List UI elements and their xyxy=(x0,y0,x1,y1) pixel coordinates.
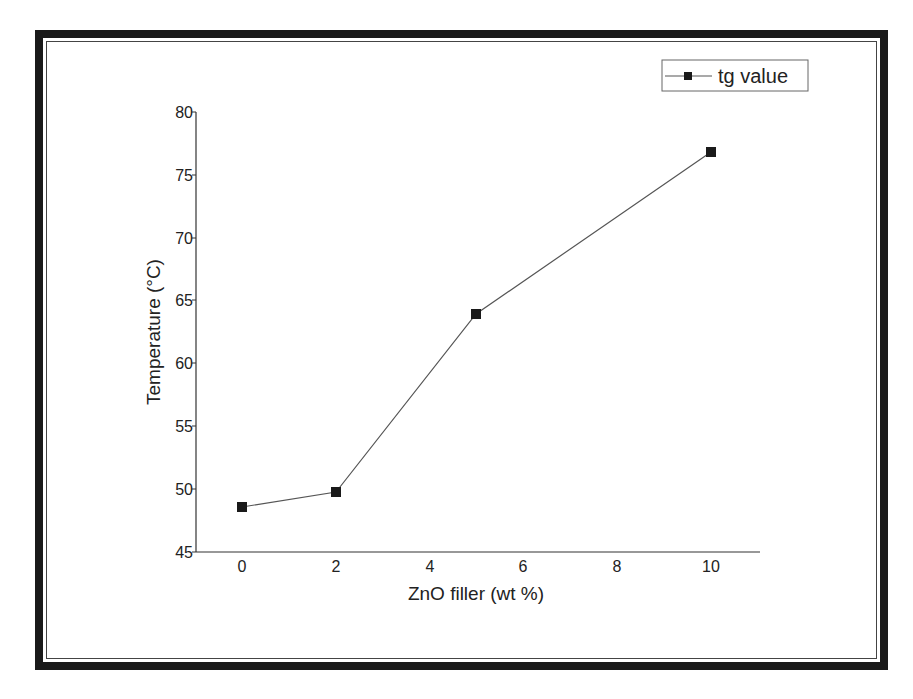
legend: tg value xyxy=(662,60,808,91)
y-tick-labels: 80 75 70 65 60 55 50 45 xyxy=(175,104,193,561)
chart-canvas: 80 75 70 65 60 55 50 45 0 2 4 6 8 10 ZnO… xyxy=(0,0,913,699)
x-tick-label: 0 xyxy=(238,558,247,575)
series-line-tg-value xyxy=(242,152,711,507)
data-point xyxy=(706,147,716,157)
x-tick-label: 6 xyxy=(519,558,528,575)
x-tick-label: 8 xyxy=(613,558,622,575)
data-point xyxy=(471,309,481,319)
x-tick-label: 2 xyxy=(332,558,341,575)
y-tick-label: 80 xyxy=(175,104,193,121)
y-tick-label: 75 xyxy=(175,167,193,184)
y-tick-label: 45 xyxy=(175,544,193,561)
y-tick-label: 65 xyxy=(175,292,193,309)
y-axis-title: Temperature (°C) xyxy=(143,259,164,405)
x-tick-label: 10 xyxy=(702,558,720,575)
x-axis-title: ZnO filler (wt %) xyxy=(408,583,544,604)
x-tick-label: 4 xyxy=(426,558,435,575)
data-point xyxy=(331,487,341,497)
y-tick-label: 60 xyxy=(175,355,193,372)
y-tick-label: 50 xyxy=(175,481,193,498)
y-tick-label: 70 xyxy=(175,230,193,247)
legend-label: tg value xyxy=(718,65,788,87)
y-tick-label: 55 xyxy=(175,418,193,435)
legend-marker-icon xyxy=(684,72,692,80)
x-tick-labels: 0 2 4 6 8 10 xyxy=(238,558,720,575)
data-point xyxy=(237,502,247,512)
